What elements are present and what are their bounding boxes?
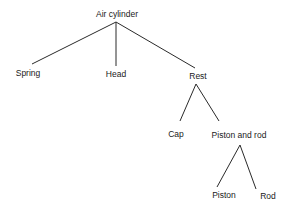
node-air-cylinder: Air cylinder xyxy=(96,10,138,19)
edge-piston-and-rod-to-piston xyxy=(217,145,240,187)
tree-diagram: Air cylinderSpringHeadRestCapPiston and … xyxy=(0,0,287,209)
node-rod: Rod xyxy=(260,192,276,201)
edge-piston-and-rod-to-rod xyxy=(240,145,256,189)
node-rest: Rest xyxy=(189,72,206,81)
edge-air-cylinder-to-rest xyxy=(116,22,195,68)
node-cap: Cap xyxy=(168,130,184,139)
edge-rest-to-cap xyxy=(180,84,196,121)
node-head: Head xyxy=(106,70,126,79)
edge-rest-to-piston-and-rod xyxy=(196,84,219,121)
node-piston: Piston xyxy=(212,191,236,200)
node-piston-and-rod: Piston and rod xyxy=(212,131,267,140)
edge-air-cylinder-to-spring xyxy=(32,22,116,64)
tree-edges xyxy=(0,0,287,209)
node-spring: Spring xyxy=(16,69,41,78)
